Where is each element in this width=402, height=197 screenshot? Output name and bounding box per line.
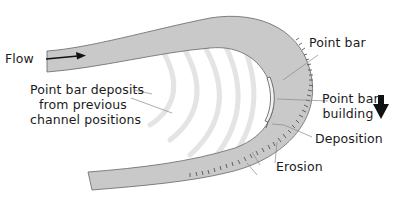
point-bar-building-label: Point bar building [322,91,374,121]
erosion-label: Erosion [276,159,323,174]
meander-diagram: Flow Point bar deposits from previous ch… [0,0,402,197]
point-bar-deposits-label: Point bar deposits from previous channel… [30,82,136,127]
flow-label: Flow [5,51,34,66]
deposition-label: Deposition [315,131,383,146]
point-bar-label: Point bar [309,35,366,50]
